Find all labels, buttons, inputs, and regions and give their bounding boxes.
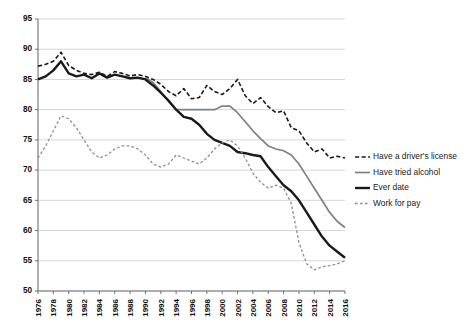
- x-tick-label: 2008: [280, 298, 289, 316]
- x-tick-label: 1996: [188, 298, 197, 316]
- x-tick-label: 2000: [218, 298, 227, 316]
- y-tick-label: 60: [23, 226, 33, 235]
- x-tick-label: 2010: [295, 298, 304, 316]
- x-tick-label: 2014: [326, 298, 335, 316]
- legend-label-2: Ever date: [373, 182, 409, 192]
- y-tick-label: 80: [23, 105, 33, 114]
- x-tick-label: 1990: [141, 298, 150, 316]
- y-tick-label: 75: [23, 135, 33, 144]
- legend-label-3: Work for pay: [373, 198, 421, 208]
- y-tick-label: 65: [23, 196, 33, 205]
- x-tick-label: 2006: [264, 298, 273, 316]
- legend-label-1: Have tried alcohol: [373, 167, 440, 177]
- chart-container: 50556065707580859095 1976197819801982198…: [0, 0, 469, 336]
- series-lines: [38, 52, 345, 270]
- x-tick-label: 1976: [34, 298, 43, 316]
- gridlines: [38, 19, 345, 291]
- x-axis: 1976197819801982198419861988199019921994…: [34, 291, 350, 317]
- y-tick-label: 50: [23, 286, 33, 295]
- series-line-0: [38, 52, 345, 158]
- y-tick-label: 90: [23, 44, 33, 53]
- chart-legend: Have a driver's licenseHave tried alcoho…: [355, 151, 457, 208]
- legend-label-0: Have a driver's license: [373, 151, 457, 161]
- x-tick-label: 1984: [95, 298, 104, 316]
- x-tick-label: 1980: [65, 298, 74, 316]
- y-tick-label: 85: [23, 75, 33, 84]
- x-tick-label: 1982: [80, 298, 89, 316]
- line-chart: 50556065707580859095 1976197819801982198…: [0, 0, 469, 336]
- x-tick-label: 1988: [126, 298, 135, 316]
- series-line-2: [38, 61, 345, 257]
- y-tick-label: 55: [23, 256, 33, 265]
- x-tick-label: 1986: [111, 298, 120, 316]
- series-line-3: [38, 116, 345, 270]
- x-tick-label: 2002: [234, 298, 243, 316]
- y-tick-label: 95: [23, 14, 33, 23]
- x-tick-label: 1994: [172, 298, 181, 316]
- x-tick-label: 2016: [341, 298, 350, 316]
- x-tick-label: 2012: [310, 298, 319, 316]
- x-tick-label: 2004: [249, 298, 258, 316]
- y-tick-label: 70: [23, 165, 33, 174]
- x-tick-label: 1992: [157, 298, 166, 316]
- x-tick-label: 1978: [49, 298, 58, 316]
- x-tick-label: 1998: [203, 298, 212, 316]
- y-axis: 50556065707580859095: [23, 14, 38, 295]
